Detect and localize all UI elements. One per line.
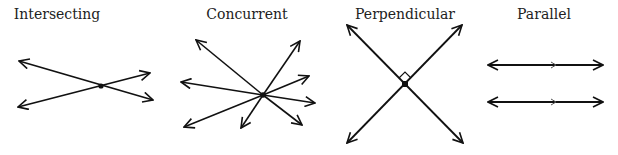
intersecting-diagram — [18, 61, 153, 107]
right-angle-marker — [399, 72, 411, 78]
parallel-diagram — [488, 62, 603, 105]
perpendicular-diagram — [347, 25, 463, 143]
lines-diagram-canvas — [0, 0, 618, 155]
concurrent-diagram — [181, 40, 315, 128]
